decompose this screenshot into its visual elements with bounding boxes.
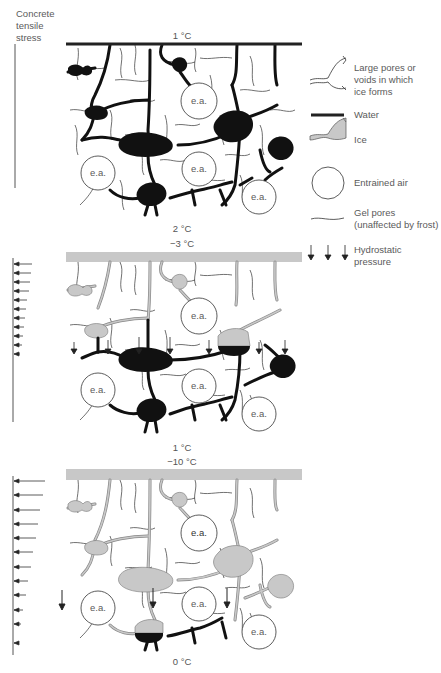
legend-water-label: Water xyxy=(354,109,379,121)
air-label: e.a. xyxy=(90,602,106,614)
stress-axis-panel-2 xyxy=(13,258,32,422)
panel-3-top-temp: −10 °C xyxy=(152,456,212,467)
legend-large-pores-label: Large pores or voids in which ice forms xyxy=(354,62,416,98)
air-label: e.a. xyxy=(251,626,267,638)
legend-large-pores-line: Large pores or xyxy=(354,62,416,74)
legend-entrained-air-icon xyxy=(312,167,344,199)
air-label: e.a. xyxy=(90,384,106,396)
air-label: e.a. xyxy=(191,95,207,107)
panel-3-bottom-temp: 0 °C xyxy=(152,656,212,667)
panel-1-bottom-temp: 2 °C xyxy=(152,223,212,234)
air-label: e.a. xyxy=(191,598,207,610)
frost-diagram xyxy=(0,0,441,673)
air-label: e.a. xyxy=(90,167,106,179)
legend-large-pores-icon xyxy=(310,56,346,90)
legend-ice-icon xyxy=(310,118,346,140)
legend-hydrostatic-line: Hydrostatic xyxy=(354,244,402,256)
air-label: e.a. xyxy=(191,163,207,175)
legend-large-pores-line: ice forms xyxy=(354,86,416,98)
legend-gel-pores-line: Gel pores xyxy=(354,207,438,219)
stress-axis-panel-3 xyxy=(13,476,45,655)
legend-hydrostatic-label: Hydrostatic pressure xyxy=(354,244,402,268)
air-label: e.a. xyxy=(191,380,207,392)
panel-2-pore-structure xyxy=(68,262,296,432)
panel-2-bottom-temp: 1 °C xyxy=(152,442,212,453)
legend-entrained-air-label: Entrained air xyxy=(354,177,408,189)
panel-3-ice-surface xyxy=(66,469,302,480)
panel-2-ice-surface xyxy=(66,252,302,262)
legend-gel-pores-icon xyxy=(311,218,344,219)
legend-hydrostatic-line: pressure xyxy=(354,256,402,268)
legend-gel-pores-label: Gel pores (unaffected by frost) xyxy=(354,207,438,231)
air-label: e.a. xyxy=(251,408,267,420)
panel-1-top-temp: 1 °C xyxy=(152,30,212,41)
legend-gel-pores-line: (unaffected by frost) xyxy=(354,219,438,231)
panel-1-pore-structure xyxy=(68,45,295,215)
panel-3-pore-structure xyxy=(59,480,294,650)
air-label: e.a. xyxy=(251,191,267,203)
panel-2-top-temp: −3 °C xyxy=(152,238,212,249)
air-label: e.a. xyxy=(191,527,207,539)
legend-ice-label: Ice xyxy=(354,134,367,146)
legend-large-pores-line: voids in which xyxy=(354,74,416,86)
legend-hydrostatic-arrows-icon xyxy=(308,245,348,260)
air-label: e.a. xyxy=(191,310,207,322)
